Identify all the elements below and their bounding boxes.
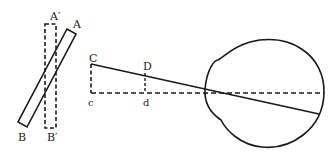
- label-d-lower: d: [143, 97, 150, 108]
- label-b: B: [18, 131, 26, 144]
- rod-ab: [18, 29, 76, 127]
- label-a-prime: A′: [49, 10, 61, 23]
- label-b-prime: B′: [47, 131, 58, 144]
- label-c-upper: C: [89, 52, 97, 65]
- eye-diagram: A′ A B B′ C c D d: [0, 0, 334, 160]
- label-c-lower: c: [88, 97, 94, 108]
- label-a: A: [72, 18, 82, 31]
- label-d-upper: D: [143, 60, 152, 73]
